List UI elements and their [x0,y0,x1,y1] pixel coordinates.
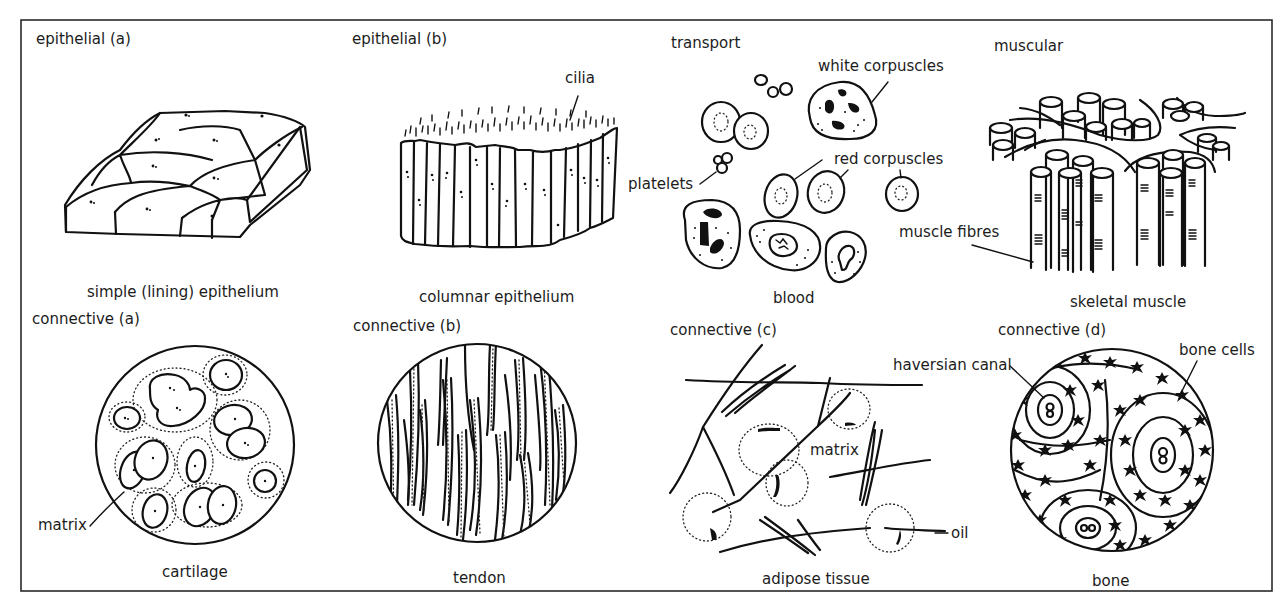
caption-simple-epithelium: simple (lining) epithelium [87,283,279,301]
white-corpuscles-pointer-line [872,82,888,102]
skeletal-muscle-illustration [972,93,1245,272]
panel-category-connective-b: connective (b) [353,317,461,335]
label-cilia: cilia [565,69,595,87]
muscle-fibres-pointer-line [972,245,1033,262]
blood-illustration [684,75,918,282]
caption-blood: blood [773,289,815,307]
caption-columnar-epithelium: columnar epithelium [419,288,574,306]
haversian-canal-pointer-line [1010,366,1044,398]
caption-adipose-tissue: adipose tissue [762,570,870,588]
caption-cartilage: cartilage [162,563,228,581]
panel-category-muscular: muscular [994,37,1063,55]
label-platelets: platelets [628,175,693,193]
label-oil: oil [951,524,969,542]
label-cartilage-matrix: matrix [38,516,87,534]
panel-category-epithelial-a: epithelial (a) [36,30,131,48]
panel-category-connective-d: connective (d) [998,321,1106,339]
platelets-pointer-line [700,172,716,184]
label-adipose-matrix: matrix [810,441,859,459]
label-muscle-fibres: muscle fibres [899,223,999,241]
label-haversian-canal: haversian canal [893,356,1012,374]
label-red-corpuscles: red corpuscles [834,150,943,168]
caption-tendon: tendon [453,569,506,587]
panel-category-transport: transport [671,34,740,52]
label-white-corpuscles: white corpuscles [818,57,944,75]
cartilage-illustration [90,346,294,544]
panel-category-connective-a: connective (a) [32,310,140,328]
cilia-pointer-line [570,96,578,120]
label-bone-cells: bone cells [1179,341,1255,359]
tissue-types-diagram: epithelial (a) simple (lining) epitheliu… [0,0,1282,609]
columnar-epithelium-illustration [401,96,617,247]
adipose-tissue-illustration [670,345,948,555]
caption-bone: bone [1092,572,1129,590]
simple-epithelium-illustration [65,111,310,238]
bone-cells-pointer-line [1181,361,1197,393]
caption-skeletal-muscle: skeletal muscle [1070,293,1186,311]
bone-cells [0,0,1212,552]
panel-category-epithelial-b: epithelial (b) [352,30,447,48]
tendon-illustration [378,343,576,542]
panel-category-connective-c: connective (c) [670,321,777,339]
